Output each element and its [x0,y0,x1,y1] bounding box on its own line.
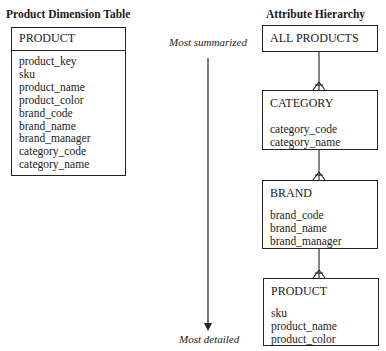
attribute: product_color [271,333,378,346]
level-name: BRAND [263,181,377,204]
most-detailed-label: Most detailed [179,333,239,345]
arrow-head-icon [204,323,212,331]
attribute: brand_manager [19,132,125,145]
attribute: category_code [270,123,377,136]
most-summarized-label: Most summarized [169,36,247,48]
attribute: product_name [271,320,378,333]
level-category: CATEGORY category_code category_name [262,90,378,150]
attribute: product_color [19,94,125,107]
level-name: ALL PRODUCTS [263,26,377,49]
attribute: brand_name [270,222,377,235]
attribute: product_name [19,81,125,94]
level-product: PRODUCT sku product_name product_color [263,278,379,346]
attribute: brand_name [19,120,125,133]
attribute: sku [19,68,125,81]
connector-all-to-category [313,51,325,90]
level-attributes: category_code category_name [263,114,377,149]
level-attributes: brand_code brand_name brand_manager [263,204,377,248]
attribute: brand_manager [270,235,377,248]
attribute: sku [271,307,378,320]
attribute: brand_code [270,209,377,222]
attribute: category_name [19,158,125,171]
attribute: category_name [270,136,377,149]
connector-brand-to-product [313,248,325,278]
product-dimension-table: PRODUCT product_key sku product_name pro… [11,27,126,176]
attribute: category_code [19,145,125,158]
table-attributes: product_key sku product_name product_col… [12,51,125,171]
connector-category-to-brand [313,149,325,180]
level-brand: BRAND brand_code brand_name brand_manage… [262,180,378,249]
level-attributes: sku product_name product_color [264,302,378,346]
level-name: CATEGORY [263,91,377,114]
level-all-products: ALL PRODUCTS [262,25,378,52]
table-header: PRODUCT [12,28,125,51]
attribute: product_key [19,55,125,68]
level-name: PRODUCT [264,279,378,302]
attribute: brand_code [19,107,125,120]
hierarchy-title: Attribute Hierarchy [266,8,365,20]
dimension-table-title: Product Dimension Table [6,8,130,20]
